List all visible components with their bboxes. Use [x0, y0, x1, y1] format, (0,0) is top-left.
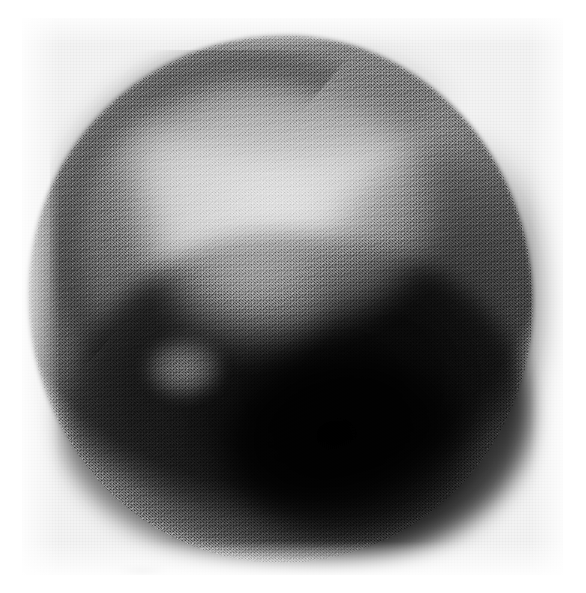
film-edge-vignette: [22, 18, 563, 575]
film-sheet: [22, 18, 563, 575]
image-title: Grainy circular radionuclide scan image: [0, 0, 1, 1]
scan-page: Grainy circular radionuclide scan image: [0, 0, 586, 593]
